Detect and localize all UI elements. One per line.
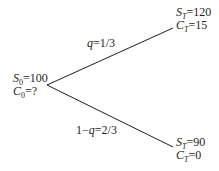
down-stock-value: =90 (186, 135, 205, 149)
down-option-symbol: C (176, 148, 184, 162)
down-option-sub: T (184, 155, 188, 164)
up-option-sub: T (184, 25, 188, 34)
up-option-value: =15 (188, 18, 207, 32)
down-prob-value: =2/3 (95, 123, 117, 137)
up-probability-label: q=1/3 (87, 37, 115, 49)
root-option-symbol: C (13, 84, 21, 98)
root-stock-value: =100 (23, 71, 48, 85)
down-option-value: =0 (188, 148, 201, 162)
up-option-label: CT=15 (176, 19, 207, 33)
down-probability-label: 1−q=2/3 (76, 124, 117, 136)
up-stock-value: =120 (186, 5, 211, 19)
down-branch (47, 85, 173, 147)
down-option-label: CT=0 (176, 149, 201, 163)
down-prob-prefix: 1− (76, 123, 89, 137)
up-prob-value: =1/3 (93, 36, 115, 50)
root-option-label: C0=? (13, 85, 37, 99)
root-option-sub: 0 (21, 91, 25, 100)
up-option-symbol: C (176, 18, 184, 32)
root-option-value: =? (25, 84, 37, 98)
